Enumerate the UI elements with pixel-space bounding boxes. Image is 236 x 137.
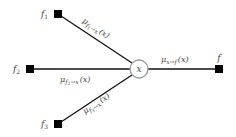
factor-node-f1: f1 [40,9,62,20]
svg-text:f3: f3 [40,119,48,130]
svg-text:f1: f1 [40,9,48,20]
svg-text:f: f [216,53,222,63]
variable-node-label: x [136,64,141,74]
factor-graph: x f1 f2 f3 f μf1→x(x) μf2→x(x) μf3→x(x) … [0,0,236,137]
factor-node-f3: f3 [40,119,62,130]
edge-f1-x [58,14,132,63]
factor-node-f2: f2 [12,64,34,75]
svg-text:f2: f2 [12,64,20,75]
variable-node-x: x [130,60,148,78]
factor-node-f: f [215,53,223,73]
message-x-to-f: μx→f(x) [161,55,189,66]
message-f3-to-x: μf3→x(x) [81,91,113,117]
message-f2-to-x: μf2→x(x) [60,75,91,86]
